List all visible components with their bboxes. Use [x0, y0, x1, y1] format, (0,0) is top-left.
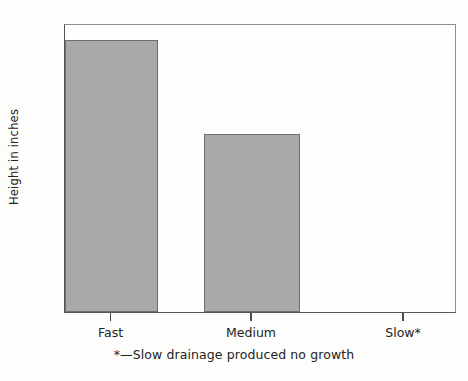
x-axis-tick-mark — [250, 313, 251, 321]
y-axis-title-text: Height in inches — [7, 108, 21, 204]
x-axis-tick-mark — [402, 313, 403, 321]
bar-fast — [65, 40, 158, 312]
plot-area — [64, 24, 456, 313]
x-axis-tick-mark — [110, 313, 111, 321]
bar-medium — [204, 134, 300, 312]
x-axis-tick-label: Slow* — [343, 325, 463, 340]
x-axis-tick-label: Fast — [51, 325, 171, 340]
x-axis-tick-label: Medium — [191, 325, 311, 340]
chart-footnote: *—Slow drainage produced no growth — [0, 347, 468, 362]
bar-chart-figure: Height in inches 00.20.40.60.811.21.41.6… — [0, 0, 468, 381]
y-axis-title: Height in inches — [0, 0, 28, 313]
